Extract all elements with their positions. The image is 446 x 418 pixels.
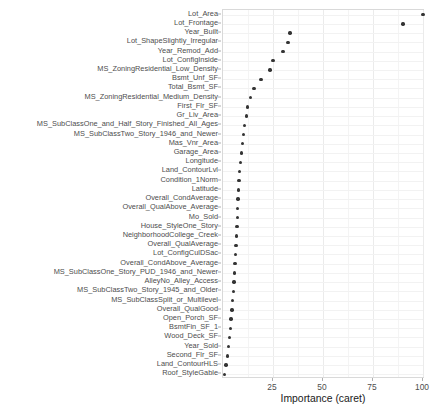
data-point bbox=[228, 336, 231, 339]
gridline-horizontal bbox=[223, 291, 423, 292]
gridline-vertical-minor bbox=[398, 10, 399, 377]
gridline-vertical-minor bbox=[248, 10, 249, 377]
x-axis-tick-mark bbox=[372, 378, 373, 381]
data-point bbox=[401, 22, 404, 25]
y-axis-tick-mark bbox=[218, 308, 221, 309]
data-point bbox=[235, 225, 238, 228]
y-axis-tick-mark bbox=[218, 225, 221, 226]
data-point bbox=[236, 197, 239, 200]
y-axis-tick-mark bbox=[218, 179, 221, 180]
data-point bbox=[238, 170, 241, 173]
data-point bbox=[286, 41, 289, 44]
gridline-vertical-major bbox=[373, 10, 374, 377]
y-axis-tick-mark bbox=[218, 59, 221, 60]
gridline-horizontal bbox=[223, 125, 423, 126]
gridline-horizontal bbox=[223, 365, 423, 366]
gridline-horizontal bbox=[223, 61, 423, 62]
data-point bbox=[223, 373, 226, 376]
data-point bbox=[249, 96, 252, 99]
data-point bbox=[259, 78, 262, 81]
data-point bbox=[239, 161, 242, 164]
y-axis-tick-mark bbox=[218, 216, 221, 217]
y-axis-tick-mark bbox=[218, 142, 221, 143]
y-axis-tick-mark bbox=[218, 318, 221, 319]
gridline-horizontal bbox=[223, 208, 423, 209]
gridline-horizontal bbox=[223, 328, 423, 329]
gridline-vertical-major bbox=[273, 10, 274, 377]
y-axis-tick-label: Longitude bbox=[186, 157, 218, 165]
y-axis-tick-mark bbox=[218, 262, 221, 263]
y-axis-tick-label: Overall_QualAbove_Average bbox=[122, 203, 218, 211]
y-axis-tick-mark bbox=[218, 105, 221, 106]
gridline-horizontal bbox=[223, 273, 423, 274]
y-axis-tick-label: Year_Sold bbox=[184, 342, 218, 350]
y-axis-tick-label: Overall_QualGood bbox=[157, 305, 218, 313]
gridline-horizontal bbox=[223, 374, 423, 375]
y-axis-tick-mark bbox=[218, 188, 221, 189]
data-point bbox=[243, 124, 246, 127]
y-axis-tick-label: Latitude bbox=[192, 185, 218, 193]
gridline-horizontal bbox=[223, 42, 423, 43]
y-axis-tick-mark bbox=[218, 13, 221, 14]
data-point bbox=[240, 151, 243, 154]
data-point bbox=[232, 290, 235, 293]
gridline-vertical-major bbox=[323, 10, 324, 377]
y-axis-tick-mark bbox=[218, 170, 221, 171]
y-axis-tick-label: Overall_QualAverage bbox=[147, 240, 218, 248]
gridline-horizontal bbox=[223, 254, 423, 255]
data-point bbox=[234, 253, 237, 256]
y-axis-tick-mark bbox=[218, 32, 221, 33]
y-axis-tick-mark bbox=[218, 161, 221, 162]
y-axis-tick-mark bbox=[218, 244, 221, 245]
y-axis-tick-mark bbox=[218, 68, 221, 69]
y-axis-tick-label: Gr_Liv_Area bbox=[177, 111, 219, 119]
x-axis-tick-label: 75 bbox=[367, 382, 376, 392]
y-axis-tick-mark bbox=[218, 253, 221, 254]
y-axis-tick-mark bbox=[218, 115, 221, 116]
y-axis-tick-label: MS_ZoningResidential_Medium_Density bbox=[84, 93, 218, 101]
x-axis-tick-mark bbox=[322, 378, 323, 381]
data-point bbox=[227, 345, 230, 348]
gridline-horizontal bbox=[223, 116, 423, 117]
plot-panel bbox=[222, 9, 424, 378]
y-axis-tick-mark bbox=[218, 50, 221, 51]
y-axis-tick-mark bbox=[218, 235, 221, 236]
y-axis-tick-mark bbox=[218, 124, 221, 125]
gridline-horizontal bbox=[223, 79, 423, 80]
x-axis-title: Importance (caret) bbox=[222, 393, 424, 404]
gridline-horizontal bbox=[223, 347, 423, 348]
y-axis-tick-label: Total_Bsmt_SF bbox=[168, 83, 218, 91]
gridline-vertical-major bbox=[423, 10, 424, 377]
x-axis-tick-label: 50 bbox=[317, 382, 326, 392]
gridline-vertical-minor bbox=[348, 10, 349, 377]
y-axis-tick-mark bbox=[218, 87, 221, 88]
data-point bbox=[252, 87, 255, 90]
y-axis-tick-label: AlleyNo_Alley_Access bbox=[144, 277, 218, 285]
data-point bbox=[236, 216, 239, 219]
data-point bbox=[242, 133, 245, 136]
gridline-horizontal bbox=[223, 171, 423, 172]
y-axis-tick-mark bbox=[218, 151, 221, 152]
y-axis-tick-mark bbox=[218, 299, 221, 300]
data-point bbox=[236, 207, 239, 210]
y-axis-tick-mark bbox=[218, 345, 221, 346]
gridline-horizontal bbox=[223, 264, 423, 265]
gridline-horizontal bbox=[223, 218, 423, 219]
y-axis-tick-mark bbox=[218, 281, 221, 282]
gridline-horizontal bbox=[223, 199, 423, 200]
y-axis-tick-label: MS_SubClassSplit_or_Multilevel bbox=[111, 296, 218, 304]
y-axis-tick-label: Open_Porch_SF bbox=[163, 314, 218, 322]
y-axis-tick-mark bbox=[218, 78, 221, 79]
gridline-horizontal bbox=[223, 98, 423, 99]
y-axis-tick-label: Land_ContourLvl bbox=[162, 166, 218, 174]
y-axis-tick-label: Year_Remod_Add bbox=[158, 47, 218, 55]
y-axis-tick-mark bbox=[218, 271, 221, 272]
data-point bbox=[288, 31, 291, 34]
y-axis-tick-mark bbox=[218, 41, 221, 42]
data-point bbox=[234, 244, 237, 247]
y-axis-tick-label: Overall_CondAbove_Average bbox=[120, 259, 218, 267]
data-point bbox=[229, 327, 232, 330]
importance-dotplot-chart: Lot_AreaLot_FrontageYear_BuiltLot_ShapeS… bbox=[0, 0, 446, 418]
y-axis-tick-mark bbox=[218, 327, 221, 328]
data-point bbox=[224, 363, 227, 366]
